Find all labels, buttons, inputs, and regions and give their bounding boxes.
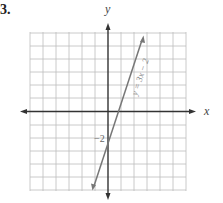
y-axis-top-arrow-icon [106, 23, 111, 30]
coordinate-plane: x y −2 y = 3x − 2 [0, 0, 223, 203]
x-axis-right-arrow-icon [189, 109, 196, 114]
line-equation-label: y = 3x − 2 [129, 57, 151, 98]
y-intercept-label: −2 [94, 133, 105, 144]
line-top-arrow-icon [140, 36, 145, 44]
y-axis-label: y [104, 2, 111, 16]
x-axis-left-arrow-icon [20, 109, 27, 114]
x-axis-label: x [203, 104, 210, 118]
y-axis-bottom-arrow-icon [106, 193, 111, 200]
